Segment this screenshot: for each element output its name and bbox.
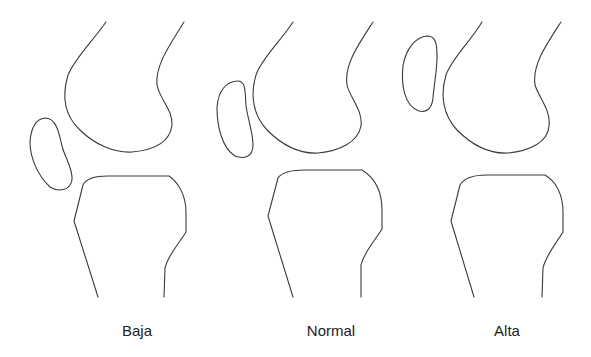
femur-normal [253, 22, 373, 153]
femur-alta [443, 22, 561, 153]
femur-baja [65, 22, 184, 152]
tibia-normal [268, 170, 382, 297]
tibia-alta [451, 175, 563, 297]
patella-baja [30, 118, 72, 190]
label-normal: Normal [307, 322, 355, 339]
patella-normal [217, 81, 253, 157]
label-baja: Baja [122, 322, 152, 339]
knee-diagram [0, 0, 591, 357]
tibia-baja [74, 176, 186, 297]
label-alta: Alta [494, 322, 520, 339]
panel-baja [30, 22, 186, 297]
patella-alta [402, 36, 437, 111]
panel-alta [402, 22, 563, 297]
panel-normal [217, 22, 382, 297]
